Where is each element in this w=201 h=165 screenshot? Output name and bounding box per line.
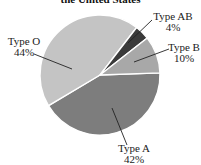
pie-slices <box>40 15 160 135</box>
label-type-b-pct: 10% <box>166 53 201 64</box>
label-type-a-pct: 42% <box>114 154 154 165</box>
label-type-ab-pct: 4% <box>148 22 198 33</box>
label-type-o: Type O 44% <box>2 36 46 58</box>
label-type-o-pct: 44% <box>2 47 46 58</box>
label-type-b: Type B 10% <box>166 42 201 64</box>
label-type-a: Type A 42% <box>114 143 154 165</box>
label-type-ab: Type AB 4% <box>148 11 198 33</box>
